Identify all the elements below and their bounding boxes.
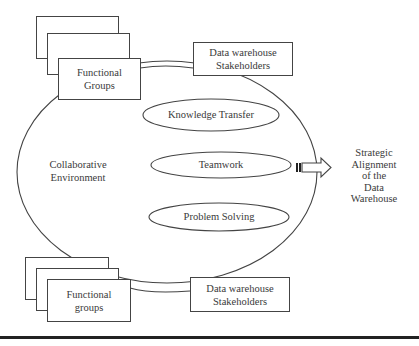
outcome-line5: Warehouse <box>339 193 409 205</box>
stakeholders-bottom-line1: Data warehouse <box>206 282 273 295</box>
functional-groups-top-line1: Functional <box>77 66 122 79</box>
bottom-rule-divider <box>0 336 419 339</box>
environment-line1: Collaborative <box>38 158 118 171</box>
stakeholders-top-line1: Data warehouse <box>209 46 276 59</box>
functional-groups-bottom-box: Functional groups <box>47 279 131 322</box>
outcome-line2: Alignment <box>339 159 409 171</box>
collaborative-environment-label: Collaborative Environment <box>38 158 118 184</box>
environment-line2: Environment <box>38 171 118 184</box>
functional-groups-bottom-line1: Functional <box>67 288 112 301</box>
outcome-line1: Strategic <box>339 147 409 159</box>
stakeholders-top-box: Data warehouse Stakeholders <box>193 42 293 76</box>
connector-bottom <box>130 288 190 292</box>
problem-solving-label: Problem Solving <box>149 210 289 223</box>
functional-groups-bottom-line2: groups <box>67 301 112 314</box>
stakeholders-bottom-line2: Stakeholders <box>206 295 273 308</box>
knowledge-transfer-label: Knowledge Transfer <box>143 108 279 121</box>
outcome-line4: Data <box>339 182 409 194</box>
stakeholders-bottom-box: Data warehouse Stakeholders <box>190 277 290 312</box>
connector-top <box>140 66 193 68</box>
stakeholders-top-line2: Stakeholders <box>209 59 276 72</box>
functional-groups-top-box: Functional Groups <box>58 58 141 100</box>
arrow-icon <box>296 158 331 177</box>
outcome-line3: of the <box>339 170 409 182</box>
teamwork-label: Teamwork <box>151 158 291 171</box>
functional-groups-top-line2: Groups <box>77 79 122 92</box>
strategic-alignment-label: Strategic Alignment of the Data Warehous… <box>339 147 409 205</box>
